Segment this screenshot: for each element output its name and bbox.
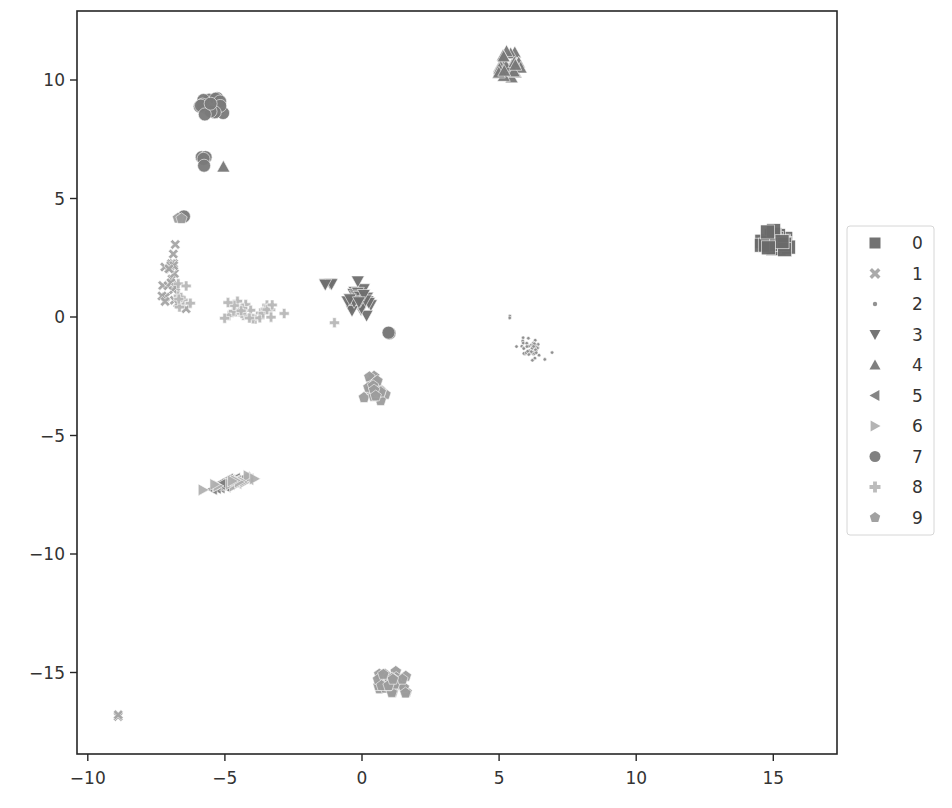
data-point	[550, 351, 554, 355]
data-point	[526, 350, 530, 354]
y-tick-label: −5	[40, 426, 65, 446]
data-point	[761, 241, 775, 255]
legend-label: 5	[912, 386, 923, 406]
data-point	[525, 341, 529, 345]
y-tick-label: 5	[54, 189, 65, 209]
data-point	[532, 345, 536, 349]
x-tick-label: 0	[357, 768, 368, 788]
x-tick-label: 10	[625, 768, 647, 788]
x-tick-label: 15	[762, 768, 784, 788]
y-tick-label: 10	[43, 70, 65, 90]
legend-label: 3	[912, 325, 923, 345]
legend-label: 7	[912, 447, 923, 467]
data-point	[543, 358, 547, 362]
data-point	[534, 351, 538, 355]
data-point	[760, 225, 774, 239]
figure-background	[0, 0, 952, 808]
x-tick-label: 5	[494, 768, 505, 788]
data-point	[521, 336, 525, 340]
data-point	[382, 326, 395, 339]
data-point	[198, 159, 211, 172]
legend-marker-icon	[870, 451, 881, 462]
legend: 0123456789	[847, 226, 934, 535]
data-point	[525, 345, 529, 349]
y-tick-label: −10	[29, 544, 65, 564]
data-point	[775, 235, 789, 249]
data-point	[508, 316, 512, 320]
x-tick-label: −5	[212, 768, 237, 788]
legend-marker-icon	[873, 302, 877, 306]
y-tick-label: −15	[29, 663, 65, 683]
data-point	[531, 359, 535, 363]
legend-label: 6	[912, 416, 923, 436]
legend-label: 0	[912, 233, 923, 253]
x-tick-label: −10	[70, 768, 106, 788]
legend-marker-icon	[870, 238, 881, 249]
data-point	[515, 345, 519, 349]
data-point	[204, 97, 217, 110]
scatter-chart: −10−5051015 −15−10−50510 0123456789	[0, 0, 952, 808]
legend-label: 8	[912, 477, 923, 497]
legend-label: 9	[912, 508, 923, 528]
data-point	[527, 336, 531, 340]
data-point	[530, 350, 534, 354]
legend-label: 4	[912, 355, 923, 375]
data-point	[521, 341, 525, 345]
data-point	[522, 347, 526, 351]
y-tick-label: 0	[54, 307, 65, 327]
legend-label: 2	[912, 294, 923, 314]
legend-label: 1	[912, 264, 923, 284]
